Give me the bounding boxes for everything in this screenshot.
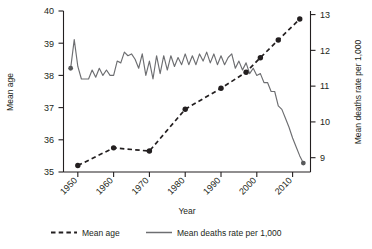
left-tick-label: 36 bbox=[44, 135, 54, 145]
left-tick-label: 35 bbox=[44, 167, 54, 177]
right-tick-label: 11 bbox=[320, 81, 329, 91]
left-tick-label: 39 bbox=[44, 39, 54, 49]
x-axis-title: Year bbox=[178, 206, 195, 216]
mean-age-point bbox=[111, 145, 116, 150]
mean-age-point bbox=[276, 37, 281, 42]
legend-label-mean-deaths-rate: Mean deaths rate per 1,000 bbox=[177, 228, 282, 238]
right-tick-label: 9 bbox=[320, 153, 325, 163]
legend-label-mean-age: Mean age bbox=[82, 228, 120, 238]
left-tick-label: 38 bbox=[44, 71, 54, 81]
mean-age-point bbox=[297, 16, 302, 21]
left-axis-title: Mean age bbox=[5, 73, 15, 111]
dual-axis-line-chart: 353637383940 Mean age 910111213 Mean dea… bbox=[0, 0, 372, 249]
mean-deaths-rate-point bbox=[68, 66, 73, 71]
mean-deaths-rate-point bbox=[301, 161, 306, 166]
mean-age-point bbox=[147, 148, 152, 153]
mean-age-point bbox=[258, 55, 263, 60]
right-tick-label: 10 bbox=[320, 117, 330, 127]
mean-age-point bbox=[75, 163, 80, 168]
mean-age-point bbox=[243, 69, 248, 74]
right-axis-title: Mean deaths rate per 1,000 bbox=[353, 40, 363, 145]
mean-age-point bbox=[183, 107, 188, 112]
mean-age-point bbox=[218, 86, 223, 91]
left-tick-label: 37 bbox=[44, 103, 54, 113]
right-tick-label: 13 bbox=[320, 10, 330, 20]
left-tick-label: 40 bbox=[44, 6, 54, 16]
right-tick-label: 12 bbox=[320, 46, 330, 56]
